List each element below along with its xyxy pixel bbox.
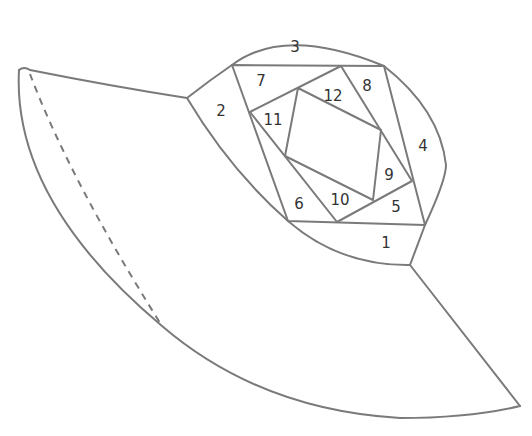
label-7: 7 xyxy=(256,72,266,90)
inner-square xyxy=(285,88,381,200)
label-3: 3 xyxy=(290,38,300,56)
crown-left-edge xyxy=(187,65,232,98)
brim-fold-dashed-line xyxy=(30,74,162,326)
label-1: 1 xyxy=(381,234,391,252)
section-3-arc xyxy=(232,45,384,66)
label-10: 10 xyxy=(330,191,349,209)
label-5: 5 xyxy=(391,198,401,216)
hat-pattern-diagram: 1 2 3 4 5 6 7 8 9 10 11 12 xyxy=(0,0,532,436)
label-11: 11 xyxy=(263,111,282,129)
label-8: 8 xyxy=(362,77,372,95)
label-2: 2 xyxy=(216,102,226,120)
label-4: 4 xyxy=(418,137,428,155)
brim-top-edge xyxy=(19,68,187,98)
label-9: 9 xyxy=(384,166,394,184)
brim-right-edge xyxy=(410,265,520,406)
label-12: 12 xyxy=(323,87,342,105)
section-labels: 1 2 3 4 5 6 7 8 9 10 11 12 xyxy=(216,38,428,252)
label-6: 6 xyxy=(294,195,304,213)
section-1-lower-edge xyxy=(288,221,425,265)
